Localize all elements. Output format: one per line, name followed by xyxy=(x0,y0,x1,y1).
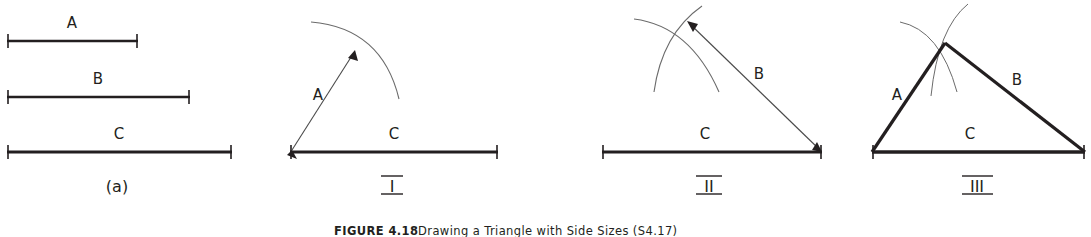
panel-i-arrow-label: A xyxy=(313,86,324,104)
panel-i-radius-arrow: A xyxy=(287,50,358,159)
panel-ii-arc-a xyxy=(634,19,719,92)
panel-label-ii: II xyxy=(704,177,713,196)
segment-c: C xyxy=(7,125,232,159)
panel-iii-side-a-label: A xyxy=(892,86,903,104)
panel-label-a: (a) xyxy=(106,177,128,196)
panel-label-i: I xyxy=(390,177,395,196)
panel-ii-baseline-label: C xyxy=(700,125,710,143)
panel-ii-arrow-label: B xyxy=(754,65,764,83)
panel-i-group: C A I xyxy=(287,22,498,196)
panel-iii-baseline-label: C xyxy=(965,125,975,143)
panel-i-baseline-label: C xyxy=(389,125,399,143)
caption-figure-number: FIGURE 4.18 xyxy=(334,224,418,237)
segment-a-label: A xyxy=(67,14,78,32)
panel-iii-group: A B C III xyxy=(872,4,1085,196)
figure-container: A B C (a) C xyxy=(0,0,1091,237)
caption-figure-title: Drawing a Triangle with Side Sizes (S4.1… xyxy=(418,224,678,237)
panel-ii-arc-b xyxy=(654,6,702,92)
panel-iii-side-a xyxy=(872,43,945,152)
panel-iii-side-b-label: B xyxy=(1012,71,1022,89)
segment-c-label: C xyxy=(114,125,124,143)
panel-i-arc xyxy=(311,22,399,99)
panel-ii-group: C B II xyxy=(602,6,822,196)
figure-caption: FIGURE 4.18 Drawing a Triangle with Side… xyxy=(334,224,678,237)
figure-drawing: A B C (a) C xyxy=(0,0,1091,237)
panel-a-group: A B C (a) xyxy=(7,14,232,196)
panel-iii-arc-b xyxy=(931,4,968,96)
segment-b: B xyxy=(7,70,190,104)
panel-iii-arc-a xyxy=(900,22,957,92)
segment-a: A xyxy=(7,14,138,48)
panel-label-iii: III xyxy=(970,177,984,196)
segment-b-label: B xyxy=(93,70,103,88)
